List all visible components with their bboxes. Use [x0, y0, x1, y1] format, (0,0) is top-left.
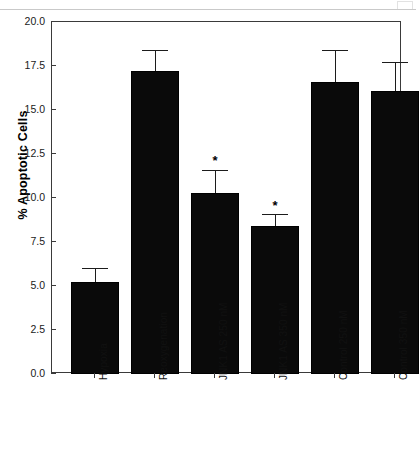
bar-3	[191, 193, 239, 374]
y-tick-mark	[51, 65, 56, 66]
y-tick-mark	[51, 197, 56, 198]
bar-1	[71, 282, 119, 374]
error-bar-cap	[262, 214, 289, 215]
error-bar-stem	[95, 268, 96, 282]
error-bar-stem	[335, 50, 336, 82]
x-tick-mark	[94, 373, 95, 378]
y-axis-tick-group: 0.02.55.07.510.012.515.017.520.0	[0, 0, 51, 458]
y-tick-label: 5.0	[8, 279, 45, 291]
bar-4	[251, 226, 299, 374]
bar-5	[311, 82, 359, 374]
bar-6	[371, 91, 419, 374]
error-bar-cap	[142, 50, 169, 51]
y-tick-mark	[51, 285, 56, 286]
x-tick-label: JNK1 AS 250 nM	[218, 302, 229, 380]
significance-star: *	[212, 158, 217, 164]
y-tick-mark	[51, 21, 56, 22]
x-tick-mark	[274, 373, 275, 378]
y-tick-label: 0.0	[8, 367, 45, 379]
y-tick-mark	[51, 373, 56, 374]
error-bar-cap	[322, 50, 349, 51]
x-tick-label: JNK1 AS 350 nM	[278, 302, 289, 380]
x-tick-label: Reoxygenation	[158, 312, 169, 380]
x-tick-mark	[154, 373, 155, 378]
x-tick-label: Control 250 nM	[338, 310, 349, 380]
x-tick-label: Control 350 nM	[398, 310, 409, 380]
error-bar-cap	[382, 62, 409, 63]
bar-2	[131, 71, 179, 374]
y-tick-label: 17.5	[8, 59, 45, 71]
x-tick-mark	[394, 373, 395, 378]
error-bar-stem	[395, 62, 396, 90]
error-bar-cap	[202, 170, 229, 171]
y-tick-mark	[51, 109, 56, 110]
x-tick-mark	[214, 373, 215, 378]
x-tick-mark	[334, 373, 335, 378]
y-tick-mark	[51, 329, 56, 330]
error-bar-stem	[215, 170, 216, 193]
y-tick-label: 7.5	[8, 235, 45, 247]
y-tick-label: 15.0	[8, 103, 45, 115]
y-tick-mark	[51, 153, 56, 154]
error-bar-stem	[155, 50, 156, 71]
error-bar-stem	[275, 214, 276, 226]
significance-star: *	[272, 203, 277, 209]
y-tick-mark	[51, 241, 56, 242]
y-tick-label: 10.0	[8, 191, 45, 203]
y-tick-label: 2.5	[8, 323, 45, 335]
y-tick-label: 12.5	[8, 147, 45, 159]
y-tick-label: 20.0	[8, 15, 45, 27]
x-tick-label: Hypoxia	[98, 343, 109, 380]
error-bar-cap	[82, 268, 109, 269]
